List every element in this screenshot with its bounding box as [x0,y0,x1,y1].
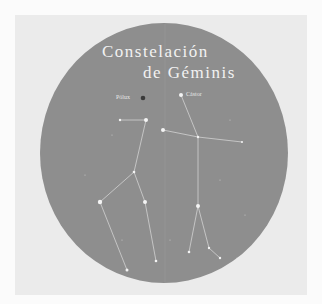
title-line-2: de Géminis [143,63,236,83]
label-pollux: Pólux [116,94,130,100]
star-pollux [141,96,146,101]
sky-disc [40,23,288,283]
label-castor: Cástor [186,91,202,97]
title-line-1: Constelación [102,42,209,62]
star-castor [179,93,183,97]
